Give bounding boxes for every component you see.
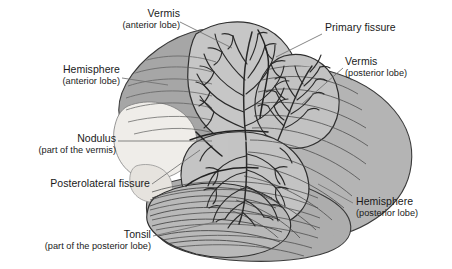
label-tonsil-sub: (part of the posterior lobe): [0, 241, 151, 251]
label-primary-fissure-main: Primary fissure: [325, 22, 452, 34]
label-primary-fissure: Primary fissure: [325, 22, 452, 34]
label-vermis-posterior: Vermis (posterior lobe): [345, 56, 452, 78]
label-hemisphere-anterior-sub: (anterior lobe): [0, 76, 120, 86]
label-hemisphere-posterior-sub: (posterior lobe): [356, 208, 452, 218]
label-hemisphere-anterior: Hemisphere (anterior lobe): [0, 64, 120, 86]
label-nodulus-sub: (part of the vermis): [0, 145, 116, 155]
label-nodulus: Nodulus (part of the vermis): [0, 133, 116, 155]
label-vermis-anterior-main: Vermis: [0, 8, 180, 20]
label-vermis-anterior: Vermis (anterior lobe): [0, 8, 180, 30]
label-hemisphere-posterior: Hemisphere (posterior lobe): [356, 196, 452, 218]
label-vermis-posterior-main: Vermis: [345, 56, 452, 68]
label-tonsil: Tonsil (part of the posterior lobe): [0, 229, 151, 251]
label-hemisphere-posterior-main: Hemisphere: [356, 196, 452, 208]
label-hemisphere-anterior-main: Hemisphere: [0, 64, 120, 76]
label-posterolateral-fissure: Posterolateral fissure: [0, 178, 150, 190]
label-vermis-anterior-sub: (anterior lobe): [0, 20, 180, 30]
label-tonsil-main: Tonsil: [0, 229, 151, 241]
cerebellum-figure: Vermis (anterior lobe) Primary fissure V…: [0, 0, 452, 269]
label-posterolateral-fissure-main: Posterolateral fissure: [0, 178, 150, 190]
label-nodulus-main: Nodulus: [0, 133, 116, 145]
label-vermis-posterior-sub: (posterior lobe): [345, 68, 452, 78]
vermis-posterior-cortex: [255, 54, 339, 148]
